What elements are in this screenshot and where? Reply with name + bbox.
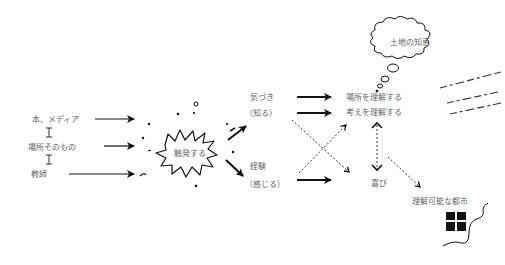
thought-bubble-label: 土地の知恵 [390, 39, 430, 47]
source-label-teacher: 教師 [31, 171, 47, 179]
outcome-understand-idea: 考えを理解する [346, 109, 402, 117]
cross-arrows [292, 120, 420, 187]
result-label: 理解可能な都市 [412, 198, 468, 206]
thought-bubble-icon [370, 17, 430, 93]
experience-sub-label: （感じる） [245, 181, 285, 189]
outcome-joy: 喜び [371, 180, 387, 188]
outcome-understand-place: 場所を理解する [346, 94, 402, 102]
trigger-label: 触発する [174, 150, 206, 158]
source-label-place-itself: 場所そのもの [28, 144, 76, 152]
wind-lines-icon [440, 72, 501, 114]
source-arrows [69, 119, 134, 174]
city-grid-icon [446, 212, 466, 231]
experience-label: 経験 [250, 163, 266, 171]
burst-arrows [226, 126, 246, 176]
burst-icon [140, 102, 235, 187]
awareness-sub-label: （知る） [245, 110, 277, 118]
awareness-label: 気づき [250, 94, 274, 102]
source-label-books-media: 本、メディア [32, 116, 79, 124]
outcome-arrows [297, 97, 331, 180]
